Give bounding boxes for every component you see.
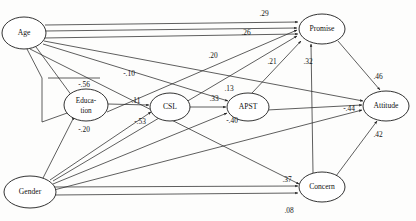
edge-label-age-apst: -.10 xyxy=(123,69,135,78)
node-gender-group: Gender xyxy=(4,176,56,208)
edge-gender-concern-b xyxy=(54,193,298,195)
node-gender-label: Gender xyxy=(19,187,42,196)
node-attitude-label: Attitude xyxy=(374,101,400,110)
node-apst-label: APST xyxy=(239,102,258,111)
edge-age-education-bracket xyxy=(27,49,70,122)
node-education-label-line2: tion xyxy=(80,107,92,115)
path-diagram-svg: Age Educa- tion CSL APST Promise Attitud… xyxy=(0,0,416,221)
edge-promise-attitude xyxy=(338,41,380,90)
edge-age-apst xyxy=(43,44,228,101)
edge-label-age-education: -.56 xyxy=(78,80,90,89)
edge-label-csl-apst: .33 xyxy=(209,94,219,103)
edge-age-promise-b xyxy=(45,28,297,31)
edge-label-promise-attitude: .46 xyxy=(373,72,383,81)
edge-age-promise xyxy=(45,22,298,25)
edge-label-gender-apst-b: -.40 xyxy=(226,116,238,125)
edge-label-education-csl: .11 xyxy=(132,96,141,105)
path-diagram-canvas: Age Educa- tion CSL APST Promise Attitud… xyxy=(0,0,416,221)
node-age-label: Age xyxy=(18,28,31,37)
edge-label-gender-concern: .37 xyxy=(282,175,292,184)
edge-apst-promise xyxy=(252,41,301,93)
edge-age-promise-c xyxy=(44,34,298,38)
edge-label-gender-education: -.20 xyxy=(78,125,90,134)
edge-label-age-promise-c: .20 xyxy=(208,51,218,60)
edge-label-apst-attitude: -.44 xyxy=(343,104,355,113)
edge-label-age-promise: .29 xyxy=(259,9,269,18)
node-csl-label: CSL xyxy=(163,102,177,111)
node-education[interactable] xyxy=(64,89,108,121)
edge-gender-concern xyxy=(54,186,298,187)
edge-label-gender-concern-b: .08 xyxy=(284,206,294,215)
edge-education-csl xyxy=(108,104,149,105)
edge-concern-attitude xyxy=(336,121,377,176)
edge-gender-education xyxy=(42,117,74,180)
edge-label-concern-promise: .32 xyxy=(303,57,313,66)
edge-label-concern-attitude: .42 xyxy=(373,130,383,139)
edge-label-gender-apst: .13 xyxy=(224,84,234,93)
edge-label-apst-promise: .21 xyxy=(267,57,277,66)
edge-label-age-promise-b: .26 xyxy=(241,28,251,37)
edge-label-gender-csl: -.53 xyxy=(134,117,146,126)
node-promise-label: Promise xyxy=(310,24,336,33)
node-concern-label: Concern xyxy=(309,182,335,191)
node-education-label-line1: Educa- xyxy=(76,97,97,105)
